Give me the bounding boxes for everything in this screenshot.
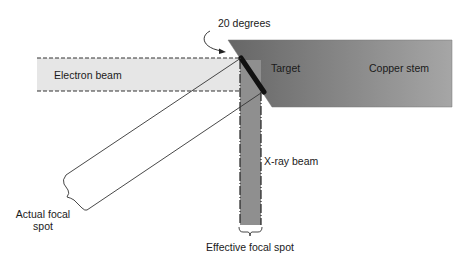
actual-focal-spot-label-line2: spot [14,220,72,232]
actual-focal-spot-bracket [63,175,87,210]
angle-arrowhead-icon [219,49,226,55]
angle-label: 20 degrees [218,17,271,29]
electron-beam-label: Electron beam [54,69,122,81]
actual-spot-line-lower [87,93,261,210]
actual-focal-spot-label-line1: Actual focal [14,208,72,220]
xray-beam-label: X-ray beam [264,155,318,167]
angle-arrow-icon [204,31,222,51]
effective-focal-spot-bracket [239,227,262,236]
actual-focal-spot-label: Actual focal spot [14,208,72,232]
target-label: Target [271,62,300,74]
copper-stem-label: Copper stem [369,62,429,74]
effective-focal-spot-label: Effective focal spot [206,241,294,253]
